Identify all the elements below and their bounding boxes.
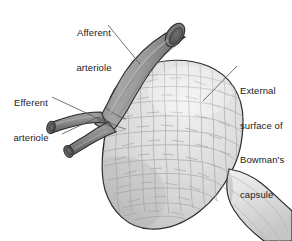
capsule-label-line1: External: [240, 85, 292, 97]
efferent-label-line2: arteriole: [2, 132, 60, 144]
afferent-arteriole-label: Afferent arteriole: [63, 4, 125, 96]
capsule-highlight: [148, 66, 232, 118]
afferent-label-line1: Afferent: [63, 27, 125, 39]
afferent-label-line2: arteriole: [63, 62, 125, 74]
capsule-shadow: [74, 156, 166, 236]
efferent-label-line1: Efferent: [2, 97, 60, 109]
capsule-label-line3: Bowman's: [240, 154, 292, 166]
efferent-arteriole-label: Efferent arteriole: [2, 74, 60, 166]
capsule-label-line4: capsule: [240, 189, 292, 201]
capsule-label-line2: surface of: [240, 120, 292, 132]
bowmans-capsule-label: External surface of Bowman's capsule: [240, 62, 292, 223]
renal-corpuscle-figure: Afferent arteriole Efferent arteriole Ex…: [0, 0, 292, 241]
